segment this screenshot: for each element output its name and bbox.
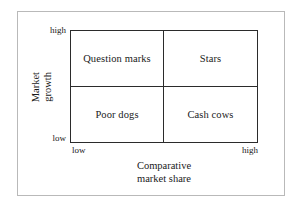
matrix-grid: Question marks Stars Poor dogs Cash cows: [70, 30, 258, 143]
quadrant-cash-cows: Cash cows: [164, 87, 257, 142]
x-axis-title: Comparative market share: [70, 159, 258, 185]
x-axis-title-line2: market share: [70, 172, 258, 185]
quadrant-stars-label: Stars: [200, 53, 222, 65]
y-axis-tick-high: high: [18, 26, 66, 35]
quadrant-question-marks: Question marks: [71, 31, 164, 87]
quadrant-poor-dogs: Poor dogs: [71, 87, 164, 142]
x-axis-tick-low: low: [72, 146, 86, 155]
quadrant-question-marks-label: Question marks: [83, 53, 151, 65]
y-axis-tick-low: low: [18, 134, 66, 143]
x-axis-title-line1: Comparative: [70, 159, 258, 172]
quadrant-poor-dogs-label: Poor dogs: [95, 109, 138, 121]
quadrant-cash-cows-label: Cash cows: [187, 109, 233, 121]
y-axis-title-line2: growth: [43, 72, 54, 102]
x-axis-tick-high: high: [210, 146, 258, 155]
quadrant-stars: Stars: [164, 31, 257, 87]
y-axis-title: Market growth: [22, 44, 62, 130]
bcg-matrix-figure: Market growth high low Question marks St…: [0, 0, 301, 210]
y-axis-title-line1: Market: [31, 72, 42, 102]
